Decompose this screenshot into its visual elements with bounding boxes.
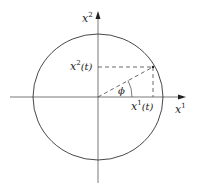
circle-diagram: ϕ x2 x1 x2(t) x1(t): [0, 0, 197, 194]
x1t-label: x1(t): [131, 99, 154, 113]
angle-arc: [128, 81, 132, 98]
x1-axis-arrow-icon: [178, 95, 186, 100]
x2-axis-arrow-icon: [96, 11, 101, 19]
point-marker: [152, 66, 154, 68]
angle-label: ϕ: [118, 85, 125, 96]
radius-line: [98, 67, 153, 97]
x2-axis-label: x2: [82, 11, 93, 25]
x1-axis-label: x1: [175, 102, 186, 116]
x2t-label: x2(t): [70, 59, 93, 73]
